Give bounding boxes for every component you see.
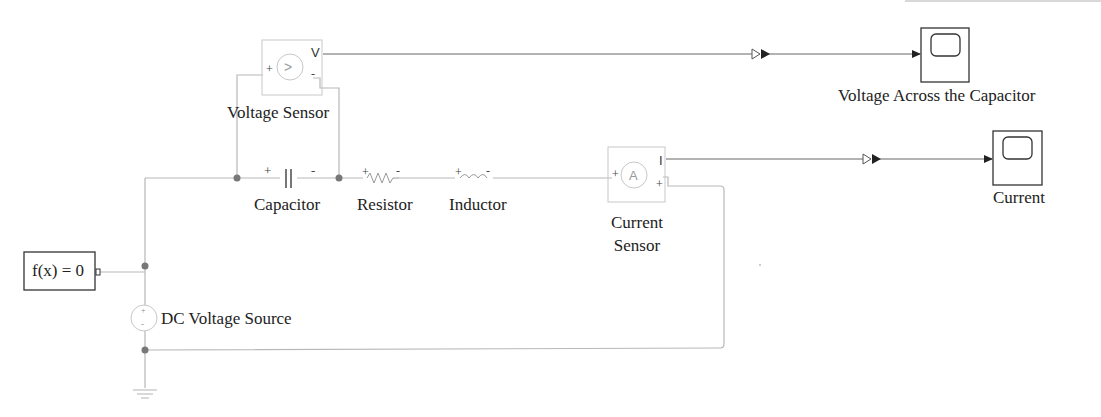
svg-text:V: V bbox=[311, 45, 320, 60]
current-sensor-block: A + + I bbox=[608, 147, 665, 202]
svg-text:+: + bbox=[612, 167, 619, 181]
svg-text:>: > bbox=[284, 59, 292, 75]
svg-text:I: I bbox=[659, 153, 663, 168]
svg-text:+: + bbox=[455, 165, 462, 179]
svg-text:-: - bbox=[396, 164, 400, 178]
voltage-sensor-block: > + - V bbox=[262, 40, 322, 95]
svg-text:+: + bbox=[656, 177, 663, 191]
capacitor-label: Capacitor bbox=[254, 195, 320, 215]
inductor-label: Inductor bbox=[449, 195, 507, 215]
scope-voltage-block bbox=[921, 28, 969, 82]
current-sensor-label-line2: Sensor bbox=[595, 236, 679, 256]
scope-voltage-label: Voltage Across the Capacitor bbox=[838, 86, 1036, 106]
svg-text:-: - bbox=[486, 164, 490, 178]
dc-voltage-source-label: DC Voltage Source bbox=[161, 309, 292, 329]
capacitor-symbol: + - bbox=[264, 163, 315, 188]
dc-voltage-source-symbol: + - bbox=[131, 305, 157, 331]
svg-text:A: A bbox=[629, 168, 638, 183]
svg-text:+: + bbox=[141, 306, 146, 315]
svg-text:-: - bbox=[141, 319, 144, 329]
scope-current-label: Current bbox=[993, 188, 1045, 208]
inductor-symbol: + - bbox=[455, 164, 493, 184]
current-sensor-label-line1: Current bbox=[595, 213, 679, 233]
svg-text:+: + bbox=[266, 62, 273, 76]
svg-text:+: + bbox=[362, 165, 369, 179]
svg-text:-: - bbox=[311, 67, 315, 81]
svg-text:-: - bbox=[311, 163, 315, 178]
scope-current-block bbox=[993, 131, 1042, 185]
voltage-sensor-label: Voltage Sensor bbox=[227, 103, 329, 123]
svg-text:+: + bbox=[264, 163, 271, 178]
circuit-canvas: > + - V + - + - + - bbox=[0, 0, 1101, 417]
ground-icon bbox=[133, 390, 157, 398]
resistor-symbol: + - bbox=[362, 164, 400, 184]
solver-config-label: f(x) = 0 bbox=[32, 261, 84, 281]
resistor-label: Resistor bbox=[357, 195, 413, 215]
